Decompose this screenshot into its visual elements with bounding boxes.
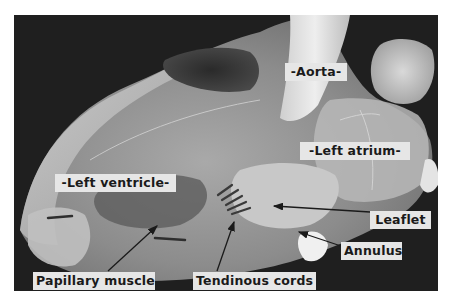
label-left-atrium: -Left atrium- xyxy=(300,142,410,160)
label-aorta: -Aorta- xyxy=(285,63,347,81)
label-left-ventricle: -Left ventricle- xyxy=(55,174,176,192)
label-annulus: Annulus xyxy=(341,242,402,260)
leaflet-arrow xyxy=(274,206,370,212)
label-leaflet: Leaflet xyxy=(370,211,431,229)
label-tendinous-cords: Tendinous cords xyxy=(193,272,316,290)
papillary-muscle-arrow xyxy=(108,226,157,271)
label-papillary-muscle: Papillary muscle xyxy=(33,272,155,290)
tendinous-cords-arrow xyxy=(217,222,234,271)
annulus-arrow xyxy=(299,232,341,246)
